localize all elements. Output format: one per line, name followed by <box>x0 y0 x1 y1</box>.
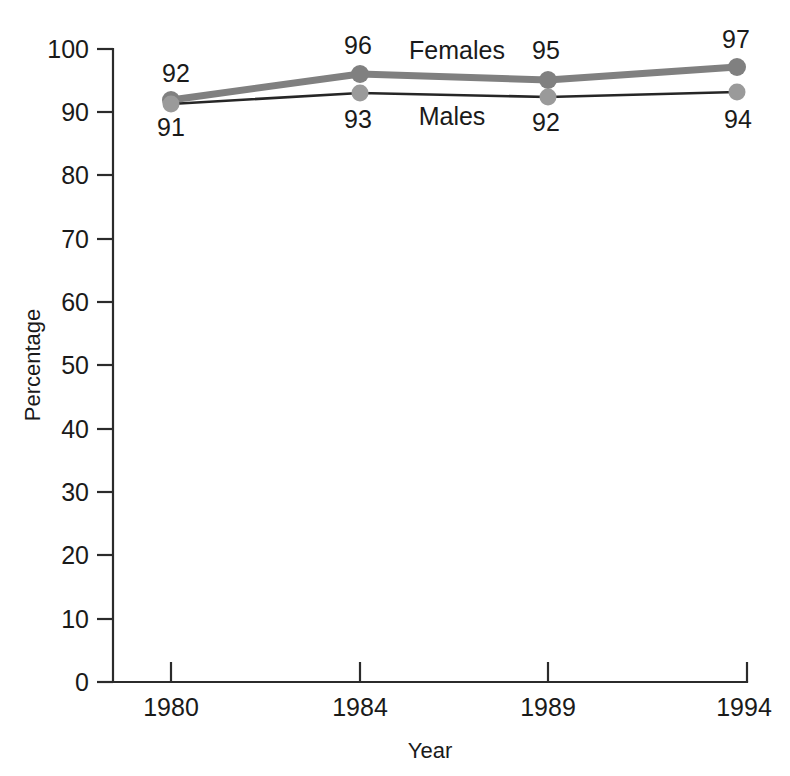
x-tick-label-1984: 1984 <box>332 693 388 721</box>
y-axis-title: Percentage <box>20 309 45 422</box>
series-label-males: Males <box>419 102 486 130</box>
males-point-1984 <box>352 85 369 102</box>
females-label-1989: 95 <box>532 36 560 64</box>
chart-page: 100 90 80 70 60 50 40 30 20 10 0 1980 19… <box>0 0 790 776</box>
y-tick-label-50: 50 <box>61 351 89 379</box>
x-tick-label-1980: 1980 <box>143 693 199 721</box>
males-point-1989 <box>540 89 557 106</box>
males-label-1980: 91 <box>157 113 185 141</box>
x-axis-title: Year <box>408 738 452 763</box>
y-tick-label-70: 70 <box>61 225 89 253</box>
series-label-females: Females <box>409 36 505 64</box>
y-tick-label-40: 40 <box>61 415 89 443</box>
y-tick-label-90: 90 <box>61 98 89 126</box>
males-point-1994 <box>729 84 746 101</box>
y-tick-label-100: 100 <box>47 35 89 63</box>
females-point-1989 <box>539 71 557 89</box>
males-label-1994: 94 <box>724 105 752 133</box>
males-point-1980 <box>163 96 180 113</box>
males-label-1984: 93 <box>344 105 372 133</box>
females-point-1994 <box>728 58 746 76</box>
line-chart: 100 90 80 70 60 50 40 30 20 10 0 1980 19… <box>0 0 790 776</box>
females-label-1980: 92 <box>162 59 190 87</box>
y-tick-label-10: 10 <box>61 605 89 633</box>
x-tick-label-1994: 1994 <box>716 693 772 721</box>
females-label-1994: 97 <box>722 25 750 53</box>
males-label-1989: 92 <box>532 108 560 136</box>
y-tick-label-20: 20 <box>61 541 89 569</box>
y-tick-label-60: 60 <box>61 288 89 316</box>
chart-background <box>0 0 790 776</box>
y-tick-label-80: 80 <box>61 161 89 189</box>
y-tick-label-0: 0 <box>75 668 89 696</box>
females-point-1984 <box>351 65 369 83</box>
x-tick-label-1989: 1989 <box>520 693 576 721</box>
y-tick-label-30: 30 <box>61 478 89 506</box>
females-label-1984: 96 <box>344 31 372 59</box>
